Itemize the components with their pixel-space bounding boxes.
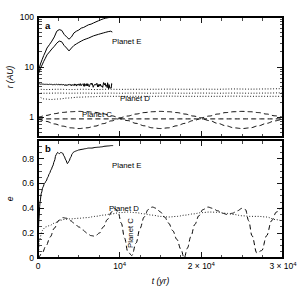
panel-b-ytick-label: 0.4	[22, 203, 34, 213]
annotation-planet-d-panel-b: Planet D	[109, 204, 139, 213]
panel-a-ytick-label: 1	[29, 112, 34, 122]
panel-b-ytick-label: 0.8	[22, 154, 34, 164]
panel-b-letter: b	[45, 143, 51, 154]
panel-b-y-axis-title: e	[5, 196, 15, 201]
annotation-planet-d-panel-a: Planet D	[120, 94, 150, 103]
figure-container: 10010100.20.40.60.801042 × 1043 × 104t (…	[0, 0, 299, 300]
xtick-label: 2 × 104	[188, 261, 216, 271]
xtick-label: 3 × 104	[269, 261, 297, 271]
panel-a-ytick-label: 100	[20, 12, 34, 22]
panel-a-ytick-label: 10	[25, 62, 35, 72]
annotation-planet-e-panel-b: Planet E	[112, 161, 141, 170]
panel-b-ytick-label: 0	[29, 253, 34, 263]
annotation-planet-e-panel-a: Planet E	[112, 37, 141, 46]
panel-b-ytick-label: 0.2	[22, 228, 34, 238]
annotation-planet-c-panel-a: Planet C	[82, 110, 112, 119]
panel-a-y-axis-title: r (AU)	[5, 66, 15, 89]
xtick-label: 0	[36, 261, 41, 271]
panel-a-letter: a	[45, 20, 51, 31]
panel-b-ytick-label: 0.6	[22, 178, 34, 188]
annotation-planet-c-panel-b: Planet C	[126, 218, 135, 248]
x-axis-title: t (yr)	[152, 276, 170, 286]
orbital-evolution-figure: 10010100.20.40.60.801042 × 1043 × 104t (…	[0, 0, 299, 300]
